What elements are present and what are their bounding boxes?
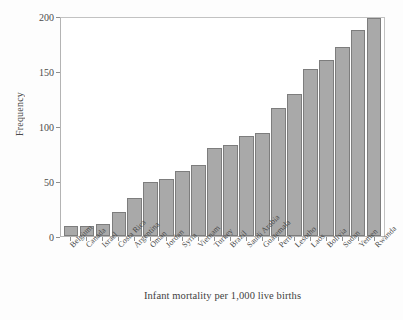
y-axis-tick-labels: 050100150200 [26, 0, 54, 320]
bar-slot [111, 18, 127, 236]
x-axis-label-slot: Vietnam [190, 242, 206, 286]
bar[interactable] [287, 94, 302, 236]
y-axis-tick-label: 50 [28, 177, 54, 188]
bar-slot [191, 18, 207, 236]
bar[interactable] [303, 69, 318, 236]
bar-slot [270, 18, 286, 236]
x-axis-label-slot: Saudi Arabia [239, 242, 255, 286]
y-axis-tick-mark [56, 17, 60, 18]
bar[interactable] [239, 136, 254, 236]
x-axis-label-slot: Canada [78, 242, 94, 286]
x-axis-label-slot: Yemen [351, 242, 367, 286]
x-axis-label-slot: Bolivia [319, 242, 335, 286]
x-axis-label-slot: Jordan [158, 242, 174, 286]
bar-slot [95, 18, 111, 236]
y-axis-tick-mark [56, 182, 60, 183]
bar-series [61, 18, 384, 236]
bar-slot [238, 18, 254, 236]
x-axis-label-slot: Rwanda [367, 242, 383, 286]
bar[interactable] [175, 171, 190, 236]
plot-area [60, 17, 385, 237]
x-axis-label-slot: Sudan [335, 242, 351, 286]
bar[interactable] [159, 179, 174, 236]
x-axis-label-slot: Turkey [206, 242, 222, 286]
bar-slot [334, 18, 350, 236]
bar[interactable] [223, 145, 238, 236]
bar[interactable] [335, 47, 350, 236]
bar[interactable] [367, 18, 382, 236]
bar[interactable] [319, 60, 334, 236]
bar-slot [350, 18, 366, 236]
infant-mortality-bar-chart: Frequency 050100150200 BelgiumCanadaIsra… [0, 0, 403, 320]
x-axis-label-slot: Syria [174, 242, 190, 286]
y-axis-tick-label: 200 [28, 12, 54, 23]
bar[interactable] [351, 30, 366, 236]
y-axis-tick-mark [56, 127, 60, 128]
x-axis-label-slot: Belgium [62, 242, 78, 286]
bar-slot [223, 18, 239, 236]
x-axis-label-slot: Lesotho [287, 242, 303, 286]
bar-slot [127, 18, 143, 236]
y-axis-tick-label: 100 [28, 122, 54, 133]
bar-slot [143, 18, 159, 236]
y-axis-tick-label: 150 [28, 67, 54, 78]
y-axis-tick-mark [56, 72, 60, 73]
x-axis-tick-labels: BelgiumCanadaIsraelCosta RicaArgentinaOm… [60, 242, 385, 286]
bar-slot [79, 18, 95, 236]
bar-slot [159, 18, 175, 236]
bar-slot [254, 18, 270, 236]
bar-slot [366, 18, 382, 236]
x-axis-label-slot: Costa Rica [110, 242, 126, 286]
x-axis-label-slot: Israel [94, 242, 110, 286]
x-axis-label-slot: Peru [271, 242, 287, 286]
bar-slot [286, 18, 302, 236]
y-axis-tick-label: 0 [28, 232, 54, 243]
bar-slot [63, 18, 79, 236]
bar[interactable] [191, 165, 206, 237]
x-axis-label-slot: Brazil [222, 242, 238, 286]
x-axis-title: Infant mortality per 1,000 live births [60, 290, 385, 301]
bar-slot [175, 18, 191, 236]
y-axis-tick-mark [56, 237, 60, 238]
bar-slot [207, 18, 223, 236]
x-axis-label-slot: Laos [303, 242, 319, 286]
x-axis-label-slot: Argentina [126, 242, 142, 286]
x-axis-label-slot: Guatemala [255, 242, 271, 286]
bar-slot [302, 18, 318, 236]
x-axis-label-slot: Oman [142, 242, 158, 286]
bar-slot [318, 18, 334, 236]
